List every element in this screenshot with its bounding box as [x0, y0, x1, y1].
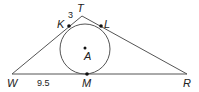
- label-A: A: [83, 50, 91, 62]
- label-K: K: [57, 18, 65, 30]
- label-WM-length: 9.5: [37, 78, 50, 88]
- geometry-diagram: T K 3 L A W 9.5 M R: [0, 0, 199, 92]
- point-L: [99, 24, 103, 28]
- label-W: W: [7, 77, 19, 89]
- label-T: T: [77, 2, 85, 14]
- point-M: [85, 72, 89, 76]
- label-TK-length: 3: [68, 10, 73, 20]
- label-L: L: [104, 18, 110, 30]
- label-M: M: [82, 77, 92, 89]
- label-R: R: [183, 77, 191, 89]
- triangle-TWR: [12, 16, 187, 74]
- point-K: [67, 24, 71, 28]
